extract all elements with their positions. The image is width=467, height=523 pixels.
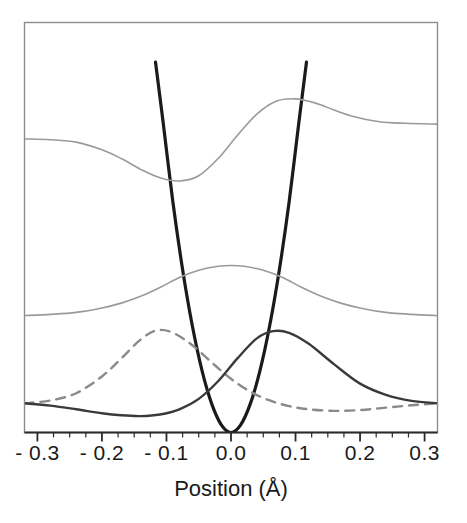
x-tick-label-2: - 0.1 xyxy=(144,441,189,464)
x-tick-label-6: 0.3 xyxy=(409,441,440,464)
position-wavefunction-chart: - 0.3- 0.2- 0.10.00.10.20.3 Position (Å) xyxy=(0,0,467,523)
figure-container: - 0.3- 0.2- 0.10.00.10.20.3 Position (Å) xyxy=(0,0,467,523)
plot-frame xyxy=(25,23,438,433)
tick-label-layer: - 0.3- 0.2- 0.10.00.10.20.3 xyxy=(15,441,440,464)
x-tick-label-1: - 0.2 xyxy=(80,441,125,464)
x-tick-label-0: - 0.3 xyxy=(15,441,60,464)
x-axis-title: Position (Å) xyxy=(174,476,288,501)
x-tick-label-4: 0.1 xyxy=(280,441,311,464)
x-tick-label-5: 0.2 xyxy=(345,441,376,464)
x-tick-label-3: 0.0 xyxy=(216,441,247,464)
